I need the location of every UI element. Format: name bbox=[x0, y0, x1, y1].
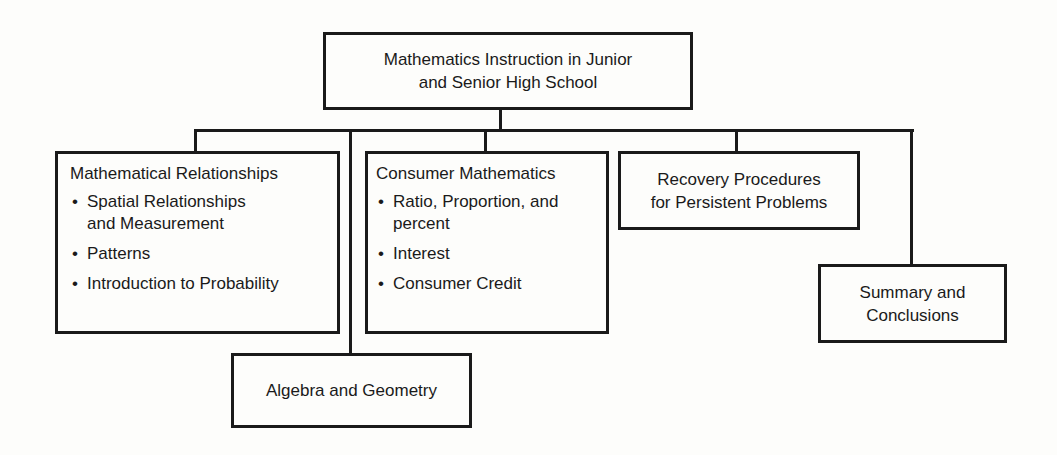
root-node: Mathematics Instruction in Junior and Se… bbox=[323, 32, 693, 110]
node-line1: Recovery Procedures bbox=[657, 168, 820, 191]
list-item: Interest bbox=[376, 243, 598, 265]
list-item: Ratio, Proportion, and percent bbox=[376, 191, 598, 235]
node-recovery-procedures: Recovery Procedures for Persistent Probl… bbox=[618, 151, 860, 230]
node-consumer-mathematics: Consumer Mathematics Ratio, Proportion, … bbox=[365, 151, 609, 334]
node-algebra-geometry: Algebra and Geometry bbox=[231, 353, 472, 428]
list-item: Consumer Credit bbox=[376, 273, 598, 295]
horizontal-bus-line bbox=[194, 129, 914, 132]
node-line2: for Persistent Problems bbox=[651, 191, 828, 214]
node-item-list: Ratio, Proportion, and percent Interest … bbox=[376, 191, 598, 295]
drop-line-summary-conclusions bbox=[910, 129, 913, 265]
drop-line-mathematical-relationships bbox=[194, 129, 197, 152]
node-heading: Mathematical Relationships bbox=[70, 163, 325, 185]
drop-line-algebra-geometry bbox=[349, 129, 352, 354]
node-line1: Summary and bbox=[860, 281, 966, 304]
node-item-list: Spatial Relationships and Measurement Pa… bbox=[70, 191, 325, 295]
drop-line-consumer-mathematics bbox=[484, 129, 487, 152]
node-heading: Algebra and Geometry bbox=[266, 379, 437, 402]
node-mathematical-relationships: Mathematical Relationships Spatial Relat… bbox=[55, 151, 340, 334]
list-item: Spatial Relationships and Measurement bbox=[70, 191, 325, 235]
list-item: Patterns bbox=[70, 243, 325, 265]
root-title-line1: Mathematics Instruction in Junior bbox=[384, 48, 633, 71]
node-heading: Consumer Mathematics bbox=[376, 163, 598, 185]
root-title-line2: and Senior High School bbox=[419, 71, 598, 94]
node-summary-conclusions: Summary and Conclusions bbox=[818, 264, 1007, 343]
list-item: Introduction to Probability bbox=[70, 273, 325, 295]
drop-line-recovery-procedures bbox=[735, 129, 738, 152]
node-line2: Conclusions bbox=[866, 304, 959, 327]
